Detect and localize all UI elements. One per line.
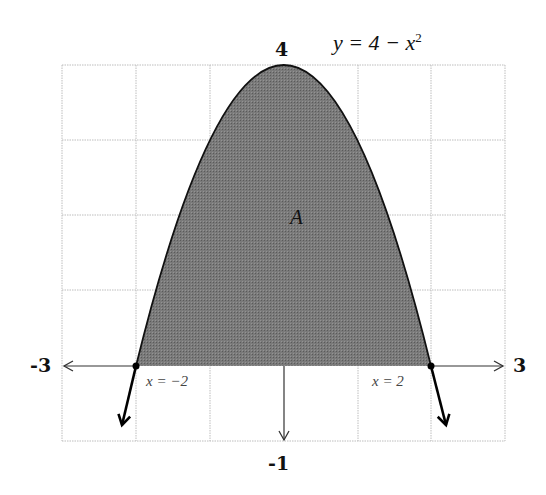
parabola-diagram — [0, 0, 546, 495]
label-left-neg3: -3 — [30, 354, 51, 376]
label-right-3: 3 — [513, 354, 526, 376]
label-x-2: x = 2 — [372, 373, 404, 390]
curve-arrow-right — [431, 366, 446, 425]
equation-exponent: 2 — [415, 30, 422, 45]
region-label: A — [290, 205, 303, 230]
equation-label: y = 4 − x2 — [333, 30, 422, 56]
point-x-2 — [428, 363, 435, 370]
curve-arrow-left — [122, 366, 136, 425]
label-top-4: 4 — [275, 38, 288, 60]
shaded-region — [136, 65, 431, 366]
point-x-neg2 — [133, 363, 140, 370]
equation-text: y = 4 − x — [333, 30, 415, 55]
label-x-neg2: x = −2 — [146, 373, 188, 390]
label-bottom-neg1: -1 — [268, 452, 289, 474]
